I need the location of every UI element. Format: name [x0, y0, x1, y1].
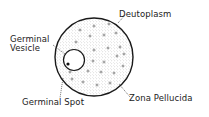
germinal-spot [66, 62, 69, 65]
label-zona-pellucida: Zona Pellucida [129, 94, 193, 103]
label-germinal-vesicle-line2: Vesicle [10, 44, 40, 53]
label-deutoplasm: Deutoplasm [119, 10, 171, 19]
ovum-diagram: Deutoplasm Germinal Vesicle Germinal Spo… [0, 0, 209, 117]
label-germinal-spot: Germinal Spot [22, 98, 84, 107]
germinal-vesicle [64, 50, 85, 71]
